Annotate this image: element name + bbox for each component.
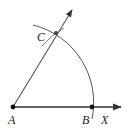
construction-diagram: A B X C xyxy=(0,0,132,129)
label-x: X xyxy=(100,113,109,127)
point-c xyxy=(54,31,58,35)
ray-ac xyxy=(13,10,72,107)
point-a xyxy=(11,105,16,110)
arc-centered-b xyxy=(42,28,64,46)
label-c: C xyxy=(37,30,46,44)
label-b: B xyxy=(82,113,90,127)
point-b xyxy=(90,105,95,110)
label-a: A xyxy=(7,113,16,127)
diagram-svg: A B X C xyxy=(0,0,132,129)
